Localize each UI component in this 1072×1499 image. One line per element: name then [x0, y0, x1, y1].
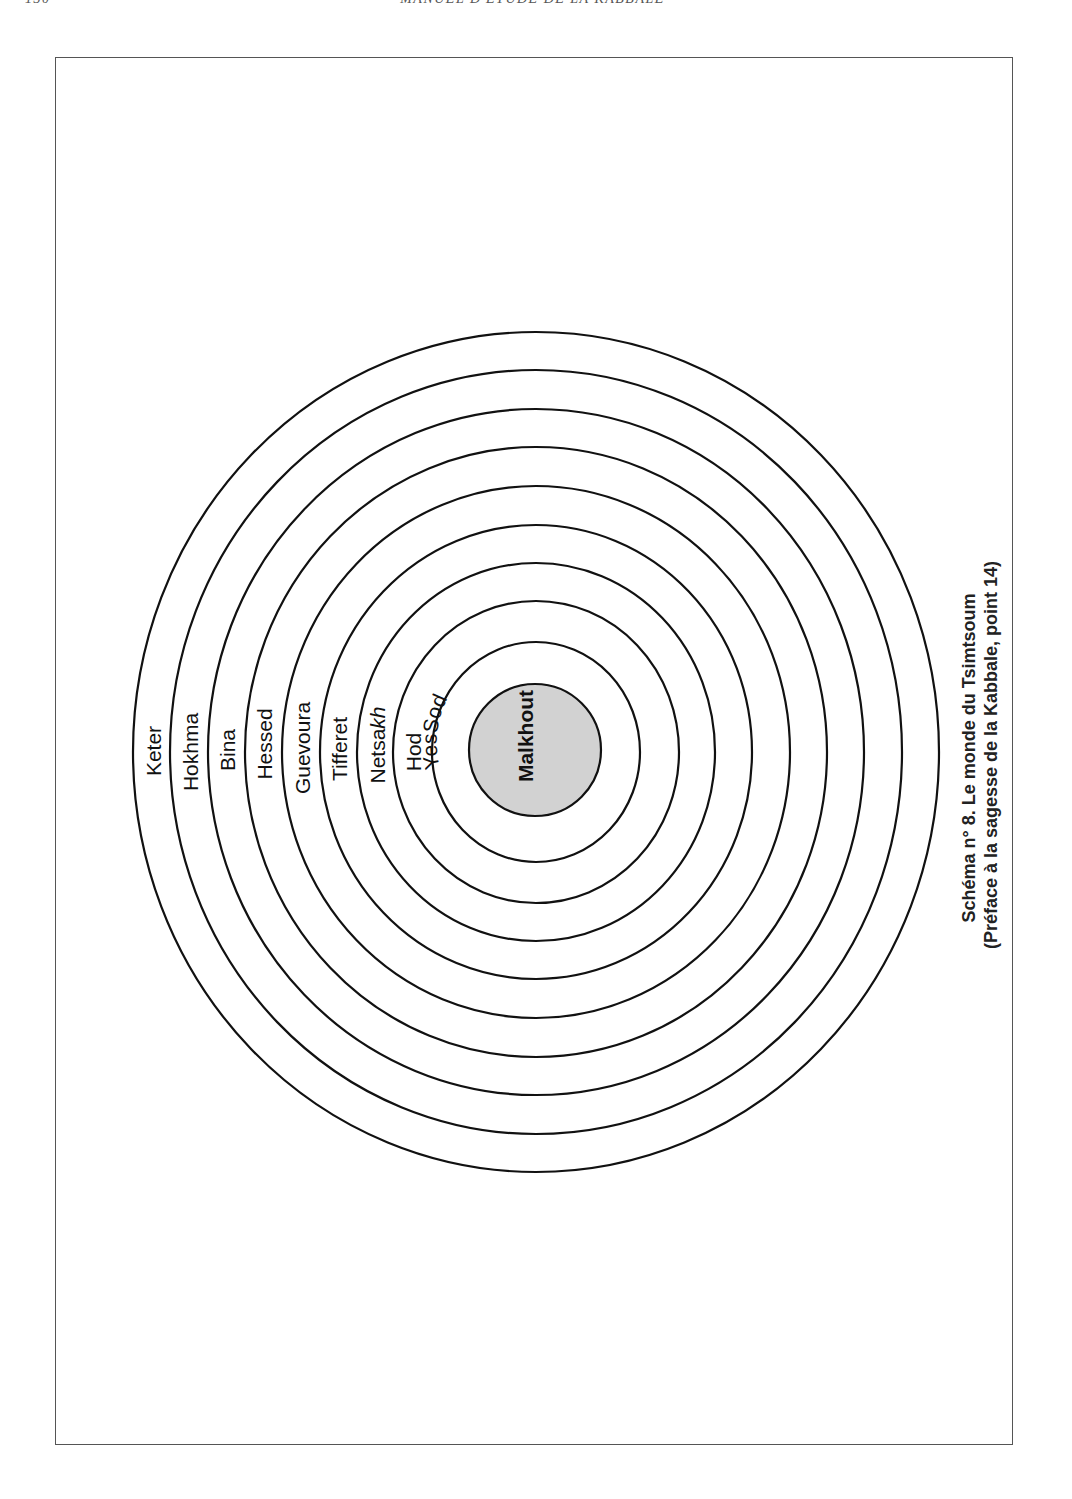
- caption-title: Schéma n° 8. Le monde du Tsimtsoum: [959, 594, 979, 923]
- label-yessod-path: YesSod: [418, 690, 451, 771]
- label-hokhma: Hokhma: [179, 713, 202, 792]
- label-guevoura: Guevoura: [291, 702, 314, 795]
- label-yessod: YesSod: [418, 690, 451, 771]
- figure-caption: Schéma n° 8. Le monde du Tsimtsoum (Préf…: [959, 561, 1001, 949]
- label-bina: Bina: [216, 729, 239, 771]
- label-netsakh-italic: kh: [366, 706, 389, 728]
- tsimtsoum-diagram: Keter Hokhma Bina Hessed Guevoura Tiffer…: [0, 0, 1072, 1499]
- label-malkhout: Malkhout: [514, 690, 537, 782]
- label-tifferet: Tifferet: [328, 717, 351, 781]
- label-netsakh: Netsakh: [366, 706, 389, 783]
- label-netsakh-main: Netsa: [366, 728, 389, 783]
- label-keter: Keter: [142, 726, 165, 776]
- caption-source: (Préface à la sagesse de la Kabbale, poi…: [981, 561, 1001, 949]
- label-hessed: Hessed: [253, 708, 276, 779]
